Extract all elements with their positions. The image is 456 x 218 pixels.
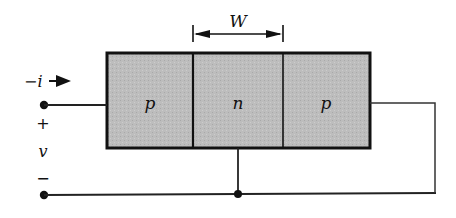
current-arrow-icon bbox=[49, 75, 71, 87]
voltage-minus: − bbox=[36, 169, 49, 188]
voltage-label: v bbox=[38, 142, 47, 161]
collector-wire bbox=[370, 103, 435, 193]
current-label: −i bbox=[24, 72, 43, 91]
base-junction-dot bbox=[234, 190, 242, 198]
width-label: W bbox=[229, 11, 248, 31]
width-dimension: W bbox=[193, 11, 283, 42]
region-p-right-label: p bbox=[321, 93, 332, 113]
dimension-arrowhead-left-icon bbox=[194, 30, 210, 38]
region-n-label: n bbox=[233, 93, 244, 113]
dimension-arrowhead-right-icon bbox=[266, 30, 282, 38]
voltage-plus: + bbox=[36, 114, 49, 133]
pnp-diagram: p n p W −i + v − bbox=[0, 0, 456, 218]
region-p-left-label: p bbox=[145, 93, 156, 113]
